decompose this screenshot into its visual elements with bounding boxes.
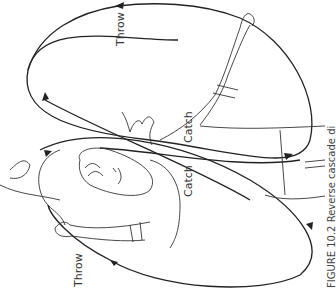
catch-label-left: Catch — [182, 165, 195, 197]
catch-label-right: Catch — [182, 111, 195, 143]
throw-label-bottom: Throw — [72, 253, 85, 288]
arrow-icon — [110, 260, 118, 266]
arrow-icon — [115, 2, 124, 9]
arrow-icon — [44, 150, 52, 157]
throw-label-top: Throw — [114, 12, 127, 47]
arrow-icon — [306, 222, 313, 230]
person-figure — [0, 14, 325, 248]
juggling-diagram: Throw Catch Catch Throw FIGURE 10.2 Reve… — [0, 0, 336, 288]
figure-caption: FIGURE 10.2 Reverse cascade di — [326, 126, 336, 288]
